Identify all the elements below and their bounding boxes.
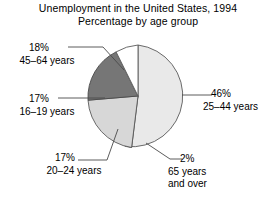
pie-slice-20-24[interactable] bbox=[88, 96, 138, 148]
callout-20-24: 17% 20–24 years bbox=[24, 152, 124, 177]
callout-45-64-percent: 18% bbox=[4, 42, 90, 55]
callout-16-19: 17% 16–19 years bbox=[4, 93, 90, 118]
callout-16-19-group: 16–19 years bbox=[4, 106, 90, 119]
callout-20-24-percent: 17% bbox=[24, 152, 124, 165]
callout-25-44-percent: 46% bbox=[203, 88, 275, 101]
callout-65-and-over-group-line2: and over bbox=[168, 178, 248, 191]
callout-65-and-over: 2% 65 years and over bbox=[168, 153, 248, 191]
pie-slices bbox=[88, 45, 183, 148]
callout-45-64: 18% 45–64 years bbox=[4, 42, 90, 67]
callout-16-19-percent: 17% bbox=[4, 93, 90, 106]
pie-chart-area: 18% 45–64 years 17% 16–19 years 17% 20–2… bbox=[0, 0, 276, 206]
callout-65-and-over-group-line1: 65 years bbox=[168, 166, 248, 179]
callout-65-and-over-percent: 2% bbox=[168, 153, 248, 166]
pie-chart-figure: Unemployment in the United States, 1994 … bbox=[0, 0, 276, 206]
callout-25-44-group: 25–44 years bbox=[203, 101, 275, 114]
callout-45-64-group: 45–64 years bbox=[4, 55, 90, 68]
callout-20-24-group: 20–24 years bbox=[24, 165, 124, 178]
callout-25-44: 46% 25–44 years bbox=[203, 88, 275, 113]
